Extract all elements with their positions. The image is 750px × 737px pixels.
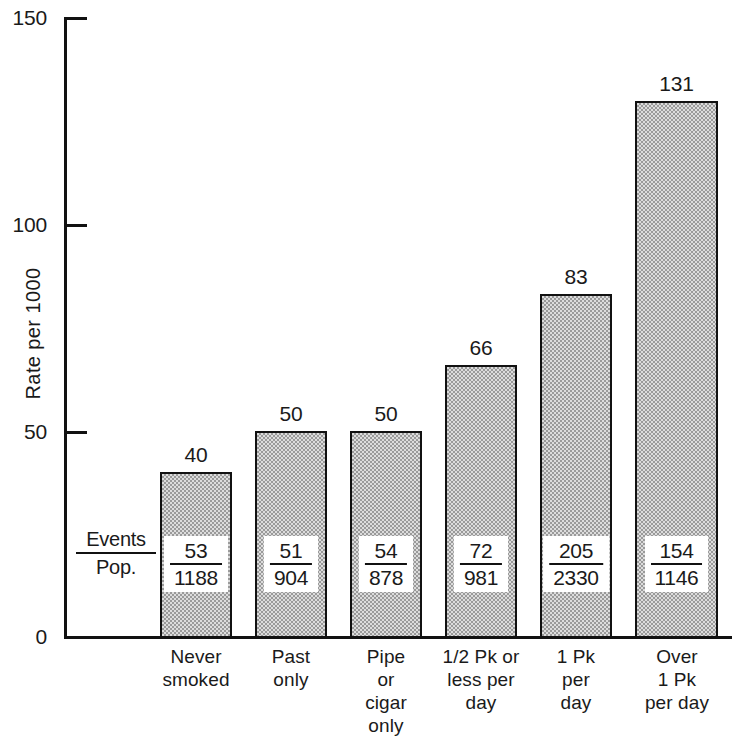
fraction-events-5: 205 <box>549 539 603 565</box>
x-label-never-smoked: Never smoked <box>150 645 242 691</box>
x-label-line-6b: 1 Pk <box>622 668 732 691</box>
x-label-line-5b: per <box>530 668 622 691</box>
fraction-pop-5: 2330 <box>549 565 603 589</box>
fraction-events-3: 54 <box>365 539 407 565</box>
bar-past-only[interactable]: 50 51 904 <box>255 431 327 638</box>
bar-pipe-or-cigar-only[interactable]: 50 54 878 <box>350 431 422 638</box>
fraction-pop-2: 904 <box>270 565 312 589</box>
x-label-line-2a: Past <box>245 645 337 668</box>
x-label-line-3b: or <box>340 668 432 691</box>
x-label-line-5c: day <box>530 691 622 714</box>
x-label-line-5a: 1 Pk <box>530 645 622 668</box>
x-label-line-3d: only <box>340 714 432 737</box>
x-label-half-pack-or-less-per-day: 1/2 Pk or less per day <box>425 645 537 714</box>
fraction-events-1: 53 <box>170 539 222 565</box>
bar-one-pack-per-day[interactable]: 83 205 2330 <box>540 294 612 638</box>
x-label-line-1a: Never <box>150 645 242 668</box>
fraction-events-6: 154 <box>651 539 703 565</box>
bar-value-2: 50 <box>257 403 325 424</box>
fraction-box-1: 53 1188 <box>164 536 228 592</box>
fraction-events-4: 72 <box>460 539 502 565</box>
fraction-box-3: 54 878 <box>359 536 413 592</box>
x-label-line-6c: per day <box>622 691 732 714</box>
bar-value-5: 83 <box>542 266 610 287</box>
x-label-line-3a: Pipe <box>340 645 432 668</box>
x-label-line-6a: Over <box>622 645 732 668</box>
bar-value-1: 40 <box>162 444 230 465</box>
fraction-box-6: 154 1146 <box>645 536 709 592</box>
x-label-over-one-pack-per-day: Over 1 Pk per day <box>622 645 732 714</box>
x-label-one-pack-per-day: 1 Pk per day <box>530 645 622 714</box>
bar-value-3: 50 <box>352 403 420 424</box>
fraction-pop-1: 1188 <box>170 565 222 589</box>
bar-value-6: 131 <box>637 73 716 94</box>
bar-value-4: 66 <box>447 337 515 358</box>
x-label-line-1b: smoked <box>150 668 242 691</box>
fraction-pop-4: 981 <box>460 565 502 589</box>
fraction-box-4: 72 981 <box>454 536 508 592</box>
x-label-line-4c: day <box>425 691 537 714</box>
fraction-events-2: 51 <box>270 539 312 565</box>
x-label-line-4b: less per <box>425 668 537 691</box>
bar-over-one-pack-per-day[interactable]: 131 154 1146 <box>635 101 718 638</box>
fraction-box-2: 51 904 <box>264 536 318 592</box>
x-label-line-4a: 1/2 Pk or <box>425 645 537 668</box>
fraction-pop-3: 878 <box>365 565 407 589</box>
fraction-pop-6: 1146 <box>651 565 703 589</box>
x-label-line-2b: only <box>245 668 337 691</box>
x-label-past-only: Past only <box>245 645 337 691</box>
fraction-box-5: 205 2330 <box>543 536 609 592</box>
x-label-line-3c: cigar <box>340 691 432 714</box>
bar-never-smoked[interactable]: 40 53 1188 <box>160 472 232 638</box>
bar-half-pack-or-less-per-day[interactable]: 66 72 981 <box>445 365 517 638</box>
x-label-pipe-or-cigar-only: Pipe or cigar only <box>340 645 432 737</box>
